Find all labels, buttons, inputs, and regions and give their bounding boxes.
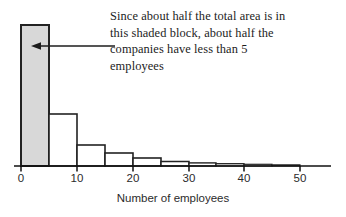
histogram-bar-5-10 (49, 114, 77, 166)
x-axis-label: Number of employees (0, 192, 346, 204)
histogram-bar-20-25 (133, 158, 161, 166)
x-tick-label-20: 20 (127, 172, 140, 184)
annotation-text: Since about half the total area is in th… (110, 8, 342, 74)
x-tick-label-50: 50 (294, 172, 307, 184)
x-tick-label-0: 0 (18, 172, 24, 184)
histogram-bar-10-15 (77, 145, 105, 166)
x-tick-label-30: 30 (183, 172, 196, 184)
histogram-figure: Since about half the total area is in th… (0, 0, 346, 217)
histogram-bar-15-20 (105, 153, 133, 166)
x-tick-label-10: 10 (71, 172, 84, 184)
x-tick-label-40: 40 (238, 172, 251, 184)
